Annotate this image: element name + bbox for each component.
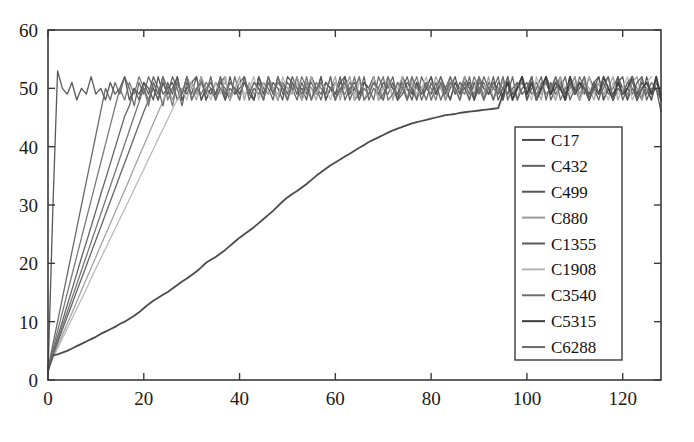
y-tick-label-0: 0 bbox=[29, 370, 39, 391]
x-tick-label-60: 60 bbox=[326, 388, 345, 409]
chart-legend[interactable]: C17C432C499C880C1355C1908C3540C5315C6288 bbox=[515, 127, 622, 360]
legend-label-c1908: C1908 bbox=[551, 260, 596, 279]
y-tick-label-60: 60 bbox=[19, 20, 38, 41]
legend-label-c3540: C3540 bbox=[551, 286, 596, 305]
legend-label-c5315: C5315 bbox=[551, 312, 596, 331]
y-tick-label-40: 40 bbox=[19, 137, 38, 158]
y-tick-label-50: 50 bbox=[19, 78, 38, 99]
x-tick-label-120: 120 bbox=[608, 388, 637, 409]
x-tick-label-0: 0 bbox=[43, 388, 53, 409]
line-chart: 0204060801001200102030405060 C17C432C499… bbox=[0, 0, 694, 442]
legend-label-c6288: C6288 bbox=[551, 338, 596, 357]
legend-label-c1355: C1355 bbox=[551, 235, 596, 254]
y-tick-label-10: 10 bbox=[19, 312, 38, 333]
x-tick-label-80: 80 bbox=[422, 388, 441, 409]
legend-label-c499: C499 bbox=[551, 183, 588, 202]
legend-label-c17: C17 bbox=[551, 131, 580, 150]
x-tick-label-40: 40 bbox=[230, 388, 249, 409]
y-tick-label-30: 30 bbox=[19, 195, 38, 216]
x-tick-label-100: 100 bbox=[513, 388, 542, 409]
x-tick-label-20: 20 bbox=[134, 388, 153, 409]
figure-container: 0204060801001200102030405060 C17C432C499… bbox=[0, 0, 694, 442]
legend-label-c432: C432 bbox=[551, 157, 588, 176]
legend-label-c880: C880 bbox=[551, 209, 588, 228]
y-tick-label-20: 20 bbox=[19, 253, 38, 274]
